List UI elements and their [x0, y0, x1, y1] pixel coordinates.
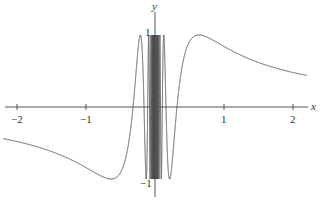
y-axis-label: y [151, 0, 157, 12]
y-tick-label: 1 [145, 26, 151, 38]
x-tick-label: −2 [11, 113, 23, 125]
chart: x y −2 −1 1 2 1 −1 [0, 0, 322, 201]
x-axis-label: x [310, 100, 316, 112]
x-tick-label: 1 [221, 113, 227, 125]
x-tick-label: 2 [290, 113, 296, 125]
x-tick-label: −1 [80, 113, 92, 125]
plot-area: x y −2 −1 1 2 1 −1 [0, 0, 322, 201]
y-tick-label: −1 [140, 177, 152, 189]
